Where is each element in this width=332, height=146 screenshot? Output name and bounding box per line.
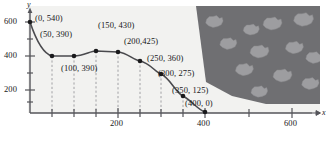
blob (306, 52, 323, 64)
point-label-5: (250, 360) (147, 53, 183, 63)
x-tick-label-600: 600 (284, 118, 297, 128)
data-point (203, 110, 208, 115)
x-tick-label-400: 400 (197, 118, 210, 128)
y-axis-label: y (27, 0, 31, 9)
data-point (28, 20, 33, 25)
x-axis-label: x (322, 108, 326, 117)
point-label-2: (100, 390) (61, 63, 97, 73)
data-point (72, 54, 77, 59)
chart-figure: y x 600 400 200 200 400 600 (0, 540) (50… (0, 0, 332, 146)
point-label-0: (0, 540) (35, 13, 63, 23)
point-label-8: (400, 0) (185, 98, 213, 108)
y-tick-label-400: 400 (4, 50, 17, 60)
data-point (94, 49, 99, 54)
data-point (116, 50, 121, 55)
data-point (138, 59, 143, 64)
y-tick-label-200: 200 (4, 84, 17, 94)
y-tick-label-600: 600 (4, 16, 17, 26)
x-tick-label-200: 200 (110, 118, 123, 128)
point-label-1: (50, 390) (40, 29, 72, 39)
data-point (50, 54, 55, 59)
point-label-3: (150, 430) (98, 20, 134, 30)
point-label-4: (200,425) (124, 36, 158, 46)
point-label-7: (350, 125) (172, 85, 208, 95)
point-label-6: (300, 275) (158, 68, 194, 78)
